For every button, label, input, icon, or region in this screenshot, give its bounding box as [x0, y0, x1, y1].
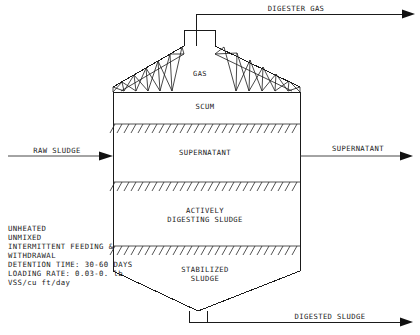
roof-chord-right-inner: [215, 54, 292, 91]
zone-label-supernatant: SUPERNATANT: [179, 148, 231, 157]
interface-hatch-supernatant-digesting: [110, 182, 300, 191]
digester-gas-flow: DIGESTER GAS: [196, 4, 415, 47]
roof-slope-left-top: [113, 46, 184, 87]
operating-notes: UNHEATED UNMIXED INTERMITTENT FEEDING & …: [8, 224, 133, 287]
digested-sludge-arrowhead: [400, 318, 413, 327]
interface-hatch-scum-supernatant: [110, 124, 300, 133]
raw-sludge-arrowhead: [99, 152, 113, 161]
supernatant-outflow: SUPERNATANT: [300, 144, 413, 161]
gas-riser: [184, 30, 215, 46]
digester-roof-truss: GAS: [113, 46, 300, 92]
digester-gas-pipe: [196, 14, 407, 46]
interface-ticks-2: [110, 182, 297, 191]
gas-riser-outline: [184, 30, 215, 46]
note-line-1: UNHEATED: [8, 224, 46, 233]
roof-slope-right-top: [215, 46, 300, 87]
interface-ticks-1: [110, 124, 297, 133]
digester-gas-arrowhead: [402, 10, 415, 19]
raw-sludge-label: RAW SLUDGE: [33, 146, 80, 155]
interface-ticks-3: [110, 246, 297, 255]
note-line-5: DETENTION TIME: 30-60 DAYS: [8, 260, 133, 269]
note-line-4: WITHDRAWAL: [8, 251, 56, 260]
zone-label-stabilized-line1: STABILIZED: [181, 265, 228, 274]
zone-label-digesting-line1: ACTIVELY: [186, 206, 224, 215]
raw-sludge-flow: RAW SLUDGE: [8, 146, 113, 161]
zone-label-scum: SCUM: [196, 102, 215, 111]
note-line-6: LOADING RATE: 0.03-0. lb: [8, 269, 123, 278]
interface-hatch-digesting-stabilized: [110, 246, 300, 255]
note-line-7: VSS/cu ft/day: [8, 278, 71, 287]
digested-sludge-flow: DIGESTED SLUDGE: [189, 311, 413, 327]
gas-space-label: GAS: [193, 70, 207, 78]
digester-gas-label: DIGESTER GAS: [268, 4, 325, 13]
note-line-2: UNMIXED: [8, 233, 42, 242]
note-line-3: INTERMITTENT FEEDING &: [8, 242, 114, 251]
roof-truss-right-diag-a: [215, 53, 300, 91]
digested-sludge-label: DIGESTED SLUDGE: [295, 312, 366, 321]
supernatant-out-label: SUPERNATANT: [332, 144, 384, 153]
zone-label-stabilized-line2: SLUDGE: [191, 274, 219, 283]
supernatant-arrowhead: [400, 152, 413, 161]
zone-label-digesting-line2: DIGESTING SLUDGE: [167, 215, 243, 224]
digester-diagram: DIGESTER GAS GAS: [0, 0, 420, 335]
roof-chord-left-inner: [121, 54, 184, 91]
